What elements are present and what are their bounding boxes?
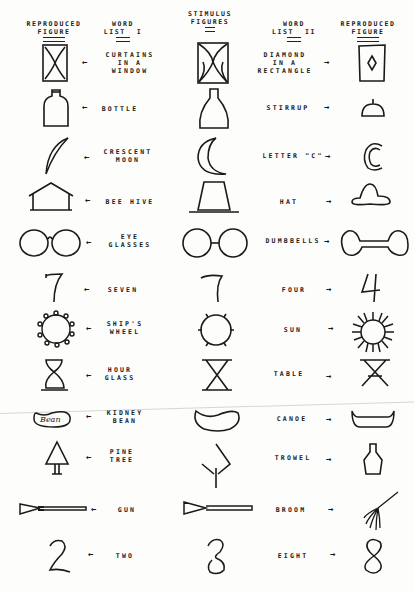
word-list-2-label: DUMBBELLS [260,237,326,245]
header-text: WORD LIST I [104,20,143,36]
stimulus-bottle-stirrup-figure [196,88,232,130]
reproduced-dumbbells-figure [340,227,410,259]
word-list-2-label: BROOM [268,506,314,514]
reproduced-letter-c-figure [362,142,386,172]
right-arrow: → [324,236,329,246]
reproduced-sun-figure [350,310,396,354]
reproduced-curtains-figure [42,44,68,82]
right-arrow: → [325,151,330,161]
reproduced-broom-figure [358,490,400,534]
stimulus-x-bars-figure [200,358,234,392]
reproduced-table-figure [358,358,392,388]
reproduced-seven-figure [44,272,64,304]
stimulus-two-circles-figure [182,227,248,259]
word-list-2-label: CANOE [270,415,314,423]
word-list-1-label: HOUR GLASS [98,366,142,382]
reproduced-kidney-bean-figure: Bean [32,409,74,429]
right-arrow: → [326,284,331,294]
left-arrow: ← [82,57,87,67]
left-arrow: ← [86,323,91,333]
word-list-1-label: CURTAINS IN A WINDOW [95,51,165,75]
right-arrow: → [326,414,331,424]
header-underline [357,37,379,42]
right-arrow: → [326,454,331,464]
header-text: STIMULUS FIGURES [188,10,232,26]
reproduced-gun-figure [18,502,88,518]
word-list-1-label: PINE TREE [100,448,144,464]
reproduced-stirrup-figure [360,98,386,122]
word-list-1-label: TWO [108,552,142,560]
reproduced-hat-figure [350,182,392,208]
header-underline [43,37,65,42]
word-list-1-label: GUN [112,506,142,514]
word-list-2-label: TROWEL [268,454,318,462]
word-list-1-label: SEVEN [98,286,148,294]
word-list-2-label: STIRRUP [258,104,318,112]
word-list-2-label: DIAMOND IN A RECTANGLE [250,51,320,75]
left-arrow: ← [86,452,91,462]
word-list-2-label: HAT [274,198,304,206]
right-arrow: → [328,504,333,514]
reproduced-bee-hive-figure [28,182,74,212]
header-underline [287,37,301,42]
word-list-1-label: CRESCENT MOON [92,148,164,164]
left-arrow: ← [85,195,90,205]
bean-text: Bean [39,415,61,424]
reproduced-eye-glasses-figure [18,227,82,259]
reproduced-bottle-figure [42,88,70,128]
stimulus-curtains-figure [197,42,229,84]
word-list-1-label: KIDNEY BEAN [100,409,150,425]
left-arrow: ← [82,102,87,112]
stimulus-circle-ticks-figure [196,312,236,348]
word-list-1-label: BEE HIVE [95,198,165,206]
left-arrow: ← [86,411,91,421]
right-arrow: → [324,102,329,112]
header-text: REPRODUCED FIGURE [26,20,81,36]
stimulus-kidney-figure [192,407,242,433]
left-arrow: ← [88,549,93,559]
word-list-2-label: SUN [276,326,310,334]
right-arrow: → [328,323,333,333]
reproduced-two-figure [46,538,72,574]
reproduced-trowel-figure [362,442,384,476]
header-underline [116,37,130,42]
stimulus-diamond-stem-figure [200,442,232,490]
header-word-list-1: WORD LIST I [88,20,158,42]
reproduced-diamond-rectangle-figure [358,44,386,82]
header-text: REPRODUCED FIGURE [340,20,395,36]
word-list-2-label: TABLE [266,370,312,378]
left-arrow: ← [84,152,89,162]
header-underline [205,27,215,32]
header-reproduced-figure-2: REPRODUCED FIGURE [318,20,414,42]
reproduced-pine-tree-figure [44,440,70,476]
word-list-1-label: BOTTLE [90,105,150,113]
stimulus-triangle-rod-figure [182,500,256,518]
left-arrow: ← [86,237,91,247]
left-arrow: ← [84,284,89,294]
stimulus-seven-figure [200,272,224,304]
left-arrow: ← [86,370,91,380]
stimulus-trapezoid-figure [188,180,240,214]
right-arrow: → [326,196,331,206]
reproduced-ships-wheel-figure [36,310,76,348]
reproduced-four-figure [360,272,382,304]
word-list-1-label: SHIP'S WHEEL [100,320,150,336]
stimulus-s-loop-figure [204,538,230,576]
right-arrow: → [330,549,335,559]
reproduced-eight-figure [360,538,388,576]
reproduced-canoe-figure [350,409,396,431]
reproduced-crescent-moon-figure [44,136,70,176]
word-list-2-label: FOUR [274,286,314,294]
reproduced-hour-glass-figure [40,358,70,392]
word-list-2-label: EIGHT [268,552,318,560]
word-list-1-label: EYE GLASSES [100,233,160,249]
right-arrow: → [326,371,331,381]
left-arrow: ← [91,504,96,514]
word-list-2-label: LETTER "C" [262,152,324,160]
right-arrow: → [324,57,329,67]
stimulus-crescent-figure [196,136,230,178]
header-stimulus-figures: STIMULUS FIGURES [170,10,250,32]
header-text: WORD LIST II [272,20,316,36]
